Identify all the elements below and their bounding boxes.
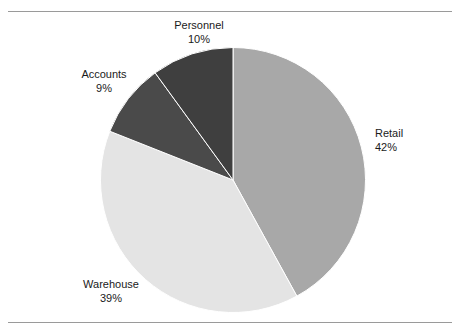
slice-label-accounts: Accounts 9%	[62, 67, 146, 95]
slice-label-personnel: Personnel 10%	[155, 18, 243, 46]
pie-chart-figure: Personnel 10% Accounts 9% Retail 42% War…	[0, 0, 460, 336]
slice-label-retail: Retail 42%	[375, 126, 455, 154]
slice-label-personnel-name: Personnel	[155, 18, 243, 32]
slice-label-retail-name: Retail	[375, 126, 455, 140]
slice-label-personnel-percent: 10%	[155, 32, 243, 46]
top-divider-rule	[8, 11, 452, 12]
slice-label-warehouse-percent: 39%	[56, 291, 166, 305]
slice-label-warehouse: Warehouse 39%	[56, 277, 166, 305]
bottom-divider-rule	[8, 322, 452, 323]
slice-label-warehouse-name: Warehouse	[56, 277, 166, 291]
slice-label-retail-percent: 42%	[375, 140, 455, 154]
slice-label-accounts-percent: 9%	[62, 81, 146, 95]
slice-label-accounts-name: Accounts	[62, 67, 146, 81]
